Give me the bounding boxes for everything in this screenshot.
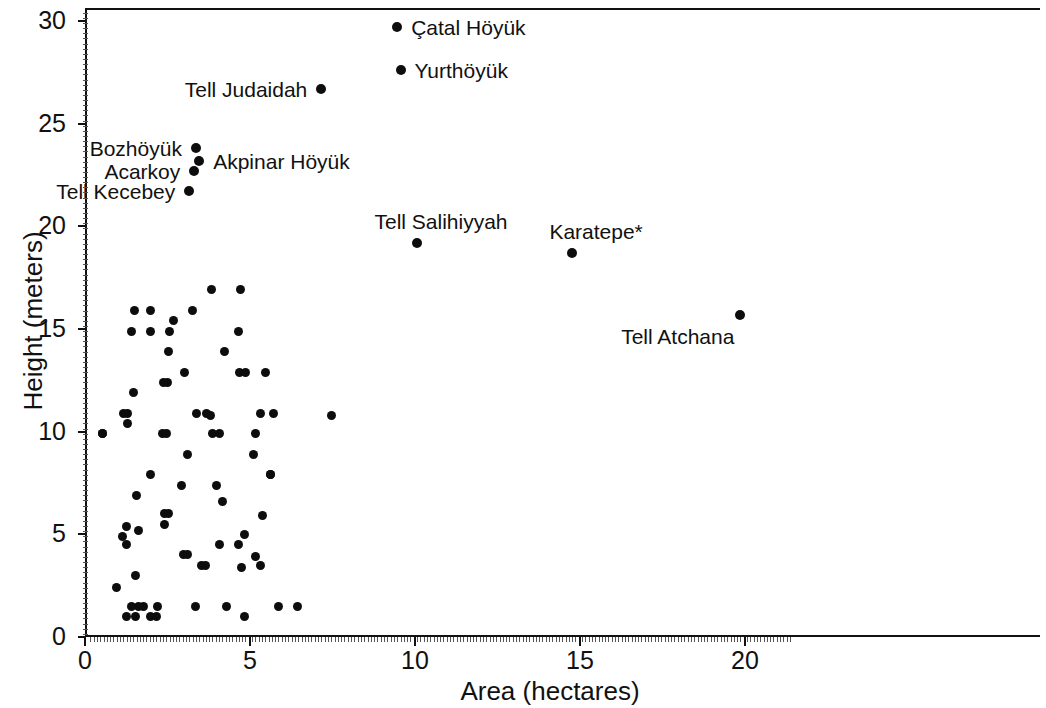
y-minor-tick: [83, 629, 88, 630]
data-point: [240, 530, 249, 539]
data-point: [222, 602, 231, 611]
y-minor-tick: [83, 521, 88, 522]
x-minor-tick: [341, 637, 342, 642]
data-point: [164, 509, 173, 518]
y-minor-tick: [83, 141, 88, 142]
x-minor-tick: [523, 637, 524, 642]
data-point: [266, 470, 275, 479]
x-minor-tick: [242, 637, 243, 642]
x-minor-tick: [107, 637, 108, 642]
x-minor-tick: [219, 637, 220, 642]
y-minor-tick: [83, 418, 88, 419]
x-minor-tick: [123, 637, 124, 642]
data-point: [146, 327, 155, 336]
x-minor-tick: [467, 637, 468, 642]
y-tick-label: 10: [22, 419, 66, 444]
y-minor-tick: [83, 321, 88, 322]
y-minor-tick: [83, 429, 88, 430]
x-minor-tick: [566, 637, 567, 642]
y-minor-tick: [83, 172, 88, 173]
x-minor-tick: [325, 637, 326, 642]
x-minor-tick: [308, 637, 309, 642]
x-minor-tick: [272, 637, 273, 642]
data-point: [183, 550, 192, 559]
y-minor-tick: [83, 372, 88, 373]
data-point: [152, 612, 161, 621]
x-minor-tick: [559, 637, 560, 642]
x-minor-tick: [516, 637, 517, 642]
y-minor-tick: [83, 393, 88, 394]
y-minor-tick: [83, 249, 88, 250]
x-minor-tick: [546, 637, 547, 642]
y-minor-tick: [83, 105, 88, 106]
x-minor-tick: [582, 637, 583, 642]
data-point: [234, 327, 243, 336]
x-minor-tick: [259, 637, 260, 642]
x-minor-tick: [457, 637, 458, 642]
y-minor-tick: [83, 18, 88, 19]
x-minor-tick: [757, 637, 758, 642]
x-minor-tick: [734, 637, 735, 642]
x-minor-tick: [368, 637, 369, 642]
y-minor-tick: [83, 398, 88, 399]
x-minor-tick: [562, 637, 563, 642]
x-minor-tick: [490, 637, 491, 642]
y-minor-tick: [83, 95, 88, 96]
y-minor-tick: [83, 198, 88, 199]
x-minor-tick: [338, 637, 339, 642]
y-minor-tick: [83, 275, 88, 276]
x-minor-tick: [130, 637, 131, 642]
x-minor-tick: [612, 637, 613, 642]
x-minor-tick: [493, 637, 494, 642]
x-minor-tick: [678, 637, 679, 642]
labeled-data-point: [189, 166, 199, 176]
x-minor-tick: [622, 637, 623, 642]
x-minor-tick: [275, 637, 276, 642]
y-minor-tick: [83, 577, 88, 578]
x-minor-tick: [632, 637, 633, 642]
y-minor-tick: [83, 377, 88, 378]
y-minor-tick: [83, 511, 88, 512]
y-minor-tick: [83, 454, 88, 455]
y-minor-tick: [83, 49, 88, 50]
x-minor-tick: [615, 637, 616, 642]
x-minor-tick: [348, 637, 349, 642]
y-minor-tick: [83, 536, 88, 537]
y-minor-tick: [83, 162, 88, 163]
x-minor-tick: [163, 637, 164, 642]
x-tick-mark: [414, 637, 416, 646]
y-minor-tick: [83, 69, 88, 70]
x-minor-tick: [503, 637, 504, 642]
x-minor-tick: [711, 637, 712, 642]
labeled-data-point: [316, 84, 326, 94]
y-minor-tick: [83, 541, 88, 542]
y-minor-tick: [83, 485, 88, 486]
data-point: [258, 511, 267, 520]
y-minor-tick: [83, 598, 88, 599]
x-minor-tick: [701, 637, 702, 642]
x-minor-tick: [750, 637, 751, 642]
x-minor-tick: [780, 637, 781, 642]
y-minor-tick: [83, 552, 88, 553]
x-minor-tick: [496, 637, 497, 642]
data-point: [256, 561, 265, 570]
x-minor-tick: [437, 637, 438, 642]
y-minor-tick: [83, 223, 88, 224]
y-minor-tick: [83, 634, 88, 635]
x-minor-tick: [331, 637, 332, 642]
x-minor-tick: [269, 637, 270, 642]
data-point: [98, 429, 107, 438]
y-minor-tick: [83, 80, 88, 81]
data-point: [218, 497, 227, 506]
x-minor-tick: [199, 637, 200, 642]
x-minor-tick: [361, 637, 362, 642]
x-minor-tick: [179, 637, 180, 642]
labeled-data-point: [191, 143, 201, 153]
x-minor-tick: [635, 637, 636, 642]
data-point: [122, 612, 131, 621]
x-minor-tick: [229, 637, 230, 642]
data-point: [160, 520, 169, 529]
data-point: [236, 285, 245, 294]
labeled-data-point: [392, 22, 402, 32]
x-minor-tick: [556, 637, 557, 642]
